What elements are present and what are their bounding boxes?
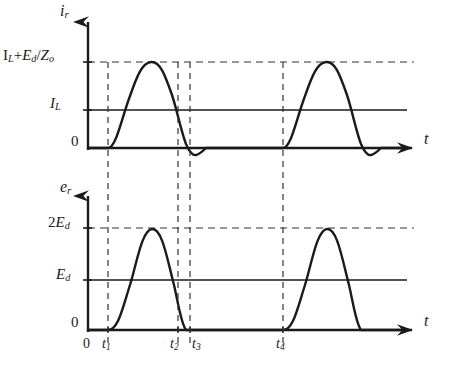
lower-level-2ed-label: 2Ed [48,214,70,231]
upper-waveform-ir [88,62,407,155]
time-marker-guides [108,62,283,345]
xtick-label-t1: t1 [102,336,111,352]
upper-level-zero-label: 0 [71,133,79,150]
upper-time-axis-label: t [424,130,428,148]
lower-level-ed-label: Ed [56,266,70,283]
xtick-label-t4: t4 [276,336,285,352]
lower-time-axis-label: t [424,312,428,330]
upper-signal-label: ir [60,2,69,20]
figure-caption [0,360,457,370]
upper-level-il-label: IL [50,95,61,112]
lower-plot-group [83,196,414,333]
upper-level-peak-label: IL+Ed/Zo [3,47,54,64]
xtick-label-t0: 0 [83,336,90,352]
lower-signal-label: er [60,178,71,196]
lower-level-zero-label: 0 [71,314,79,331]
xtick-label-t2: t2 [170,336,179,352]
upper-plot-group [83,22,414,155]
figure-canvas: ir IL+Ed/Zo IL 0 t er 2Ed Ed 0 t 0 t1 t2… [0,0,457,370]
xtick-label-t3: t3 [192,336,201,352]
